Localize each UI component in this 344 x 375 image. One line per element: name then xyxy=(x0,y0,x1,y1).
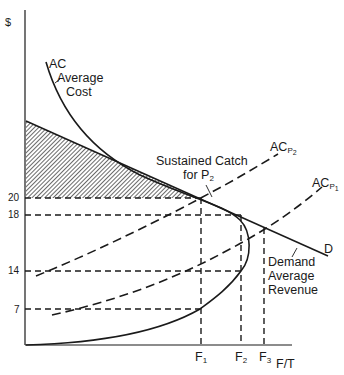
ac-p1-label: ACP1 xyxy=(312,177,339,192)
average-label: Average xyxy=(268,270,314,283)
y-tick-14: 14 xyxy=(8,266,19,276)
x-axis-label: F/T xyxy=(276,358,295,371)
ac-label-average: Average xyxy=(57,72,103,85)
y-tick-18: 18 xyxy=(8,210,19,220)
x-tick-f1: F1 xyxy=(195,351,207,365)
ac-label-cost: Cost xyxy=(66,86,92,99)
y-tick-7: 7 xyxy=(14,305,20,315)
revenue-label: Revenue xyxy=(268,284,318,297)
y-axis-label: $ xyxy=(5,17,11,28)
ac-p2-label: ACP2 xyxy=(270,141,297,156)
x-tick-f2: F2 xyxy=(235,351,247,365)
x-tick-f3: F3 xyxy=(259,351,271,365)
y-tick-20: 20 xyxy=(8,193,19,203)
sustained-catch-for-label: for P2 xyxy=(183,169,214,183)
sustained-catch-label: Sustained Catch xyxy=(156,155,248,168)
demand-short-label: D xyxy=(324,243,333,256)
demand-label: Demand xyxy=(268,256,315,269)
average-cost-curve xyxy=(26,62,249,345)
ac-label: AC xyxy=(49,58,66,71)
